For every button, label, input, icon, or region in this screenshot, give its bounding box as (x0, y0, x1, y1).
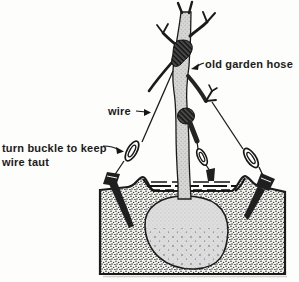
garden-hose-sleeve-middle-wire (190, 123, 197, 141)
turnbuckle-middle (194, 147, 209, 167)
turnbuckle-left (122, 139, 141, 163)
wire-label: wire (107, 105, 131, 117)
stake-middle (206, 168, 215, 181)
diagram-canvas: old garden hose wire turn buckle to keep… (0, 0, 299, 282)
old-garden-hose-label: old garden hose (205, 58, 293, 70)
guy-wire-left (114, 71, 173, 176)
wire-leader-arrow (136, 109, 151, 116)
water-basin (143, 178, 245, 191)
turnbuckle-label-line1: turn buckle to keep (2, 142, 107, 154)
hose-leader-arrow (191, 63, 204, 70)
turnbuckle-right (241, 146, 261, 170)
guy-wire-right (212, 102, 265, 180)
turnbuckle-label-line2: wire taut (1, 156, 49, 168)
tree-staking-diagram: old garden hose wire turn buckle to keep… (0, 0, 299, 282)
